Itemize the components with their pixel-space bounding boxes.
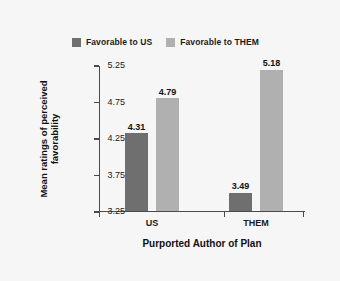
legend-item-favorable-to-us[interactable]: Favorable to US — [72, 37, 152, 47]
bar-them-us[interactable] — [229, 193, 252, 211]
chart-legend: Favorable to US Favorable to THEM — [72, 35, 302, 49]
x-axis-tick — [224, 212, 225, 217]
bar-value-label: 4.79 — [150, 87, 185, 97]
legend-item-favorable-to-them[interactable]: Favorable to THEM — [166, 37, 259, 47]
legend-swatch-favorable-to-us — [72, 38, 81, 47]
legend-label-favorable-to-them: Favorable to THEM — [180, 37, 259, 47]
y-axis-tick-label: 4.25 — [107, 133, 125, 143]
legend-label-favorable-to-us: Favorable to US — [86, 37, 152, 47]
x-axis-category-us: US — [112, 218, 192, 228]
y-axis-title-line2: favorability — [49, 114, 60, 165]
y-axis-tick-label: 4.75 — [107, 97, 125, 107]
bar-us-them[interactable] — [156, 98, 179, 210]
x-axis-tick — [303, 212, 304, 217]
bar-them-them[interactable] — [260, 70, 283, 211]
x-axis-tick — [99, 212, 100, 217]
x-axis-title: Purported Author of Plan — [99, 238, 305, 249]
y-axis-tick-label: 3.25 — [107, 206, 125, 216]
bar-us-us[interactable] — [125, 133, 148, 210]
y-axis-tick-label: 5.25 — [107, 60, 125, 70]
bar-value-label: 3.49 — [223, 181, 258, 191]
chart-figure: Favorable to US Favorable to THEM Mean r… — [0, 0, 340, 281]
bar-value-label: 5.18 — [254, 58, 289, 68]
y-axis-tick-label: 3.75 — [107, 170, 125, 180]
y-axis-title-line1: Mean ratings of perceived — [38, 80, 49, 197]
x-axis-line — [99, 211, 305, 212]
y-axis-title: Mean ratings of perceived favorability — [38, 66, 60, 212]
plot-area: 5.254.754.253.753.25 4.314.793.495.18 — [99, 66, 305, 212]
bar-value-label: 4.31 — [119, 122, 154, 132]
x-axis-category-them: THEM — [216, 218, 296, 228]
y-axis-tick-labels: 5.254.754.253.753.25 — [91, 66, 125, 212]
legend-swatch-favorable-to-them — [166, 38, 175, 47]
